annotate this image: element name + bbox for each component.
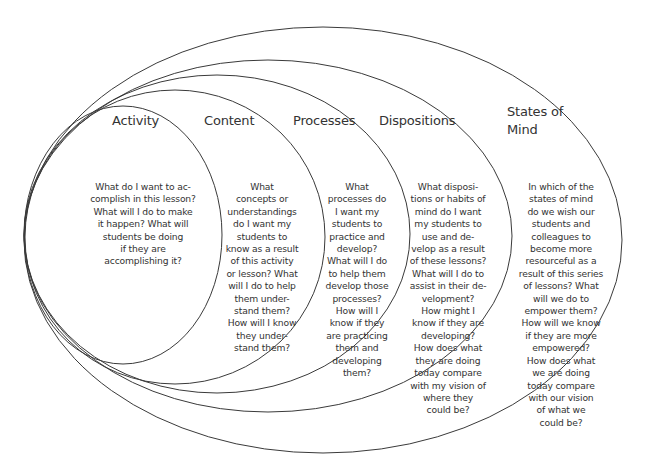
heading-processes: Processes	[293, 113, 355, 128]
text-processes: What processes do I want my students to …	[313, 181, 401, 380]
text-dispositions: What disposi- tions or habits of mind do…	[400, 181, 496, 417]
heading-content: Content	[204, 113, 254, 128]
heading-states-of-mind: States of Mind	[507, 103, 577, 139]
heading-activity: Activity	[112, 113, 159, 128]
text-activity: What do I want to ac- complish in this l…	[87, 181, 199, 268]
text-states-of-mind: In which of the states of mind do we wis…	[513, 181, 609, 429]
text-content: What concepts or understandings do I wan…	[217, 181, 307, 355]
heading-dispositions: Dispositions	[379, 113, 455, 128]
